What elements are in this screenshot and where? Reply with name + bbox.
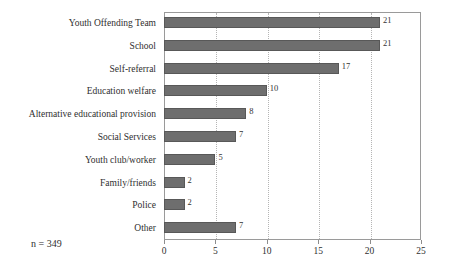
bar-value-label: 21	[383, 38, 392, 49]
bar-row: 2	[164, 194, 421, 217]
bar	[164, 177, 185, 188]
category-label: Police	[132, 194, 156, 217]
bar-value-label: 5	[218, 152, 222, 163]
x-tick-label: 20	[365, 246, 375, 256]
bar	[164, 17, 380, 28]
sample-size-note: n = 349	[31, 238, 62, 249]
bar-value-label: 7	[239, 129, 243, 140]
bar-row: 7	[164, 126, 421, 149]
bar-value-label: 17	[342, 61, 351, 72]
bar-series: 21211710875227	[164, 12, 421, 240]
category-label: Youth Offending Team	[69, 12, 156, 35]
bar	[164, 199, 185, 210]
x-tick-label: 5	[213, 246, 218, 256]
bar-value-label: 10	[270, 83, 279, 94]
x-tick-mark	[370, 240, 371, 244]
bar-row: 21	[164, 12, 421, 35]
bar-value-label: 2	[188, 175, 192, 186]
bar	[164, 131, 236, 142]
bar-row: 17	[164, 58, 421, 81]
bar-value-label: 8	[249, 106, 253, 117]
bar	[164, 40, 380, 51]
bar-row: 10	[164, 80, 421, 103]
category-label: Self-referral	[110, 58, 156, 81]
bar-chart: Youth Offending TeamSchoolSelf-referralE…	[0, 0, 450, 270]
bar-row: 2	[164, 172, 421, 195]
bar-row: 21	[164, 35, 421, 58]
x-tick-mark	[267, 240, 268, 244]
bar-value-label: 2	[188, 197, 192, 208]
x-tick-mark	[164, 240, 165, 244]
x-tick-label: 10	[262, 246, 272, 256]
x-tick-mark	[421, 240, 422, 244]
bar	[164, 222, 236, 233]
bar-value-label: 7	[239, 220, 243, 231]
bar-row: 5	[164, 149, 421, 172]
bar	[164, 63, 339, 74]
x-tick-label: 0	[162, 246, 167, 256]
bar	[164, 108, 246, 119]
category-axis-labels: Youth Offending TeamSchoolSelf-referralE…	[0, 12, 160, 240]
category-label: School	[130, 35, 156, 58]
category-label: Youth club/worker	[85, 149, 156, 172]
category-label: Social Services	[98, 126, 156, 149]
x-tick-label: 15	[313, 246, 323, 256]
x-tick-mark	[215, 240, 216, 244]
category-label: Other	[134, 217, 156, 240]
x-tick-label: 25	[416, 246, 426, 256]
category-label: Education welfare	[87, 80, 156, 103]
bar-row: 8	[164, 103, 421, 126]
bar-value-label: 21	[383, 15, 392, 26]
bar	[164, 85, 267, 96]
category-label: Family/friends	[100, 172, 156, 195]
x-tick-mark	[318, 240, 319, 244]
category-label: Alternative educational provision	[29, 103, 156, 126]
bar	[164, 154, 215, 165]
bar-row: 7	[164, 217, 421, 240]
